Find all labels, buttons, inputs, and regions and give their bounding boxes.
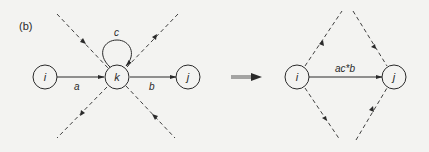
node-i-left: i [33,65,57,89]
svg-text:k: k [114,71,120,83]
edge-label-c: c [114,27,119,38]
node-k: k [105,65,129,89]
diagram-canvas: (b) c a b i k j [0,0,429,152]
edge-label-a: a [74,81,80,92]
edge-label-acb: ac*b [335,63,355,74]
edge-label-b: b [149,81,155,92]
node-i-right: i [285,65,309,89]
dashed-edges-right [305,11,387,140]
dashed-arrowheads-right [319,40,376,121]
state-elimination-diagram: (b) c a b i k j [0,0,429,152]
node-j-right: j [382,65,406,89]
node-j-left: j [176,65,200,89]
implies-arrow-icon [231,73,262,81]
self-loop-edge [103,40,132,67]
panel-label: (b) [19,20,32,32]
